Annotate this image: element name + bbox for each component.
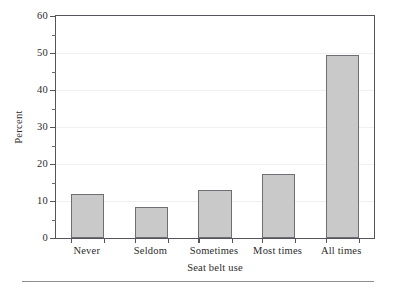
x-category-label: All times <box>321 245 362 256</box>
x-category-label: Seldom <box>134 245 167 256</box>
x-axis-title: Seat belt use <box>187 262 243 273</box>
x-tick <box>135 238 136 243</box>
x-tick <box>295 238 296 243</box>
x-tick <box>71 238 72 243</box>
plot-area: 0102030405060 <box>55 15 375 239</box>
bar <box>198 190 231 238</box>
y-tick-label: 20 <box>37 159 48 170</box>
bar <box>135 207 168 238</box>
bar <box>326 55 359 238</box>
x-category-label: Most times <box>253 245 302 256</box>
bottom-divider <box>22 281 374 282</box>
y-tick-label: 40 <box>37 85 48 96</box>
x-tick <box>168 238 169 243</box>
x-tick <box>232 238 233 243</box>
y-tick-label: 50 <box>37 48 48 59</box>
x-tick <box>262 238 263 243</box>
x-category-label: Sometimes <box>190 245 238 256</box>
y-axis-title: Percent <box>13 110 24 144</box>
y-tick-label: 10 <box>37 196 48 207</box>
y-tick-label: 60 <box>37 11 48 22</box>
x-tick <box>326 238 327 243</box>
bars-layer <box>56 16 374 238</box>
x-tick <box>359 238 360 243</box>
y-tick-major <box>50 238 56 239</box>
x-tick <box>198 238 199 243</box>
y-tick-label: 0 <box>43 233 48 244</box>
x-category-label: Never <box>73 245 100 256</box>
bar <box>262 174 295 238</box>
bar <box>71 194 104 238</box>
x-tick <box>104 238 105 243</box>
y-tick-label: 30 <box>37 122 48 133</box>
figure-container: Percent 0102030405060 NeverSeldomSometim… <box>0 0 394 291</box>
